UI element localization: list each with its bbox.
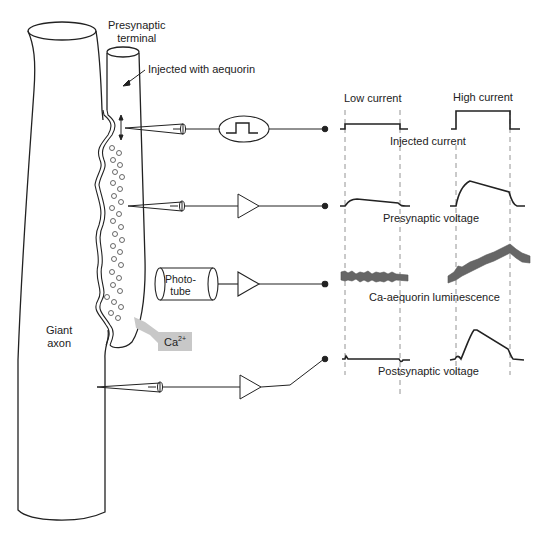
giant-axon-label: Giant axon [46,324,72,349]
phototube-label-line2: tube [165,285,196,297]
presynaptic-terminal-label-line2: terminal [108,32,165,45]
column-header-high-current: High current [453,91,513,104]
phototube-label: Photo- tube [165,273,196,297]
aequorin-arrow [123,70,145,86]
current-electrode [119,115,220,140]
phototube-label-line1: Photo- [165,273,196,285]
ca-ion-symbol: Ca [164,336,178,348]
injected-current-traces [340,111,520,129]
giant-axon-label-line2: axon [46,337,72,350]
diagram-canvas [0,0,547,538]
presynaptic-voltage-traces [340,181,525,206]
row-label-presynaptic-voltage: Presynaptic voltage [383,212,479,225]
ca-ion-charge: 2+ [178,335,186,342]
synaptic-vesicles [105,146,125,321]
column-header-low-current: Low current [344,92,401,105]
pulse-generator [219,116,328,142]
row-label-postsynaptic-voltage: Postsynaptic voltage [378,365,479,378]
presynaptic-terminal [107,47,145,348]
presynaptic-terminal-label: Presynaptic terminal [108,19,165,44]
presynaptic-terminal-label-line1: Presynaptic [108,19,165,32]
postsynaptic-voltage-traces [342,330,524,362]
injected-with-aequorin-label: Injected with aequorin [148,63,255,76]
giant-axon-label-line1: Giant [46,324,72,337]
postsynaptic-amplifier [97,356,328,399]
row-label-injected-current: Injected current [390,135,466,148]
giant-axon [18,22,108,520]
row-label-luminescence: Ca-aequorin luminescence [369,291,500,304]
ca-ion-label: Ca2+ [158,332,192,351]
time-markers [345,110,510,395]
ca-pointer [134,317,160,345]
luminescence-traces [341,244,530,283]
presynaptic-amplifier [128,194,328,218]
